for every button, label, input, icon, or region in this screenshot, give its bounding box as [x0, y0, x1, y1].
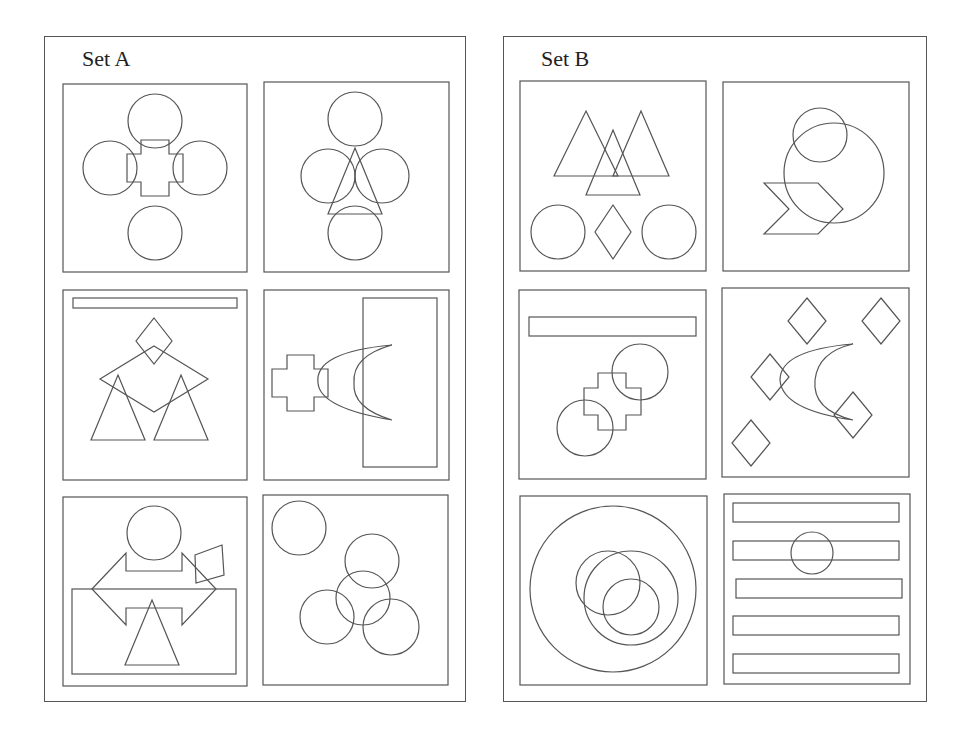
set-a-panel-3	[63, 290, 247, 480]
diagram-canvas	[0, 0, 954, 741]
set-a-panel-5	[63, 497, 247, 686]
set-b-panel-5	[520, 496, 707, 685]
set-b-panel-4	[722, 288, 909, 477]
set-b-panel-6	[724, 494, 910, 684]
set-a-panel-6	[263, 495, 448, 685]
set-a-panel-1	[63, 84, 247, 272]
set-a-panel-4	[264, 290, 449, 480]
set-b-panel-1	[520, 81, 706, 271]
set-b-panel-2	[723, 82, 909, 271]
set-a-panel-2	[264, 82, 449, 272]
set-b-panel-3	[519, 290, 706, 479]
